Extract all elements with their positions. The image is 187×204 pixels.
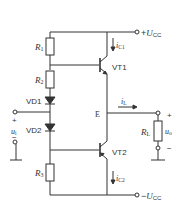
terminal-input-plus bbox=[13, 110, 17, 114]
resistor-r3 bbox=[46, 164, 54, 181]
output-minus-label: − bbox=[167, 144, 172, 153]
input-plus-label: + bbox=[12, 116, 17, 125]
vd2-label: VD2 bbox=[26, 126, 42, 135]
r3-label: R3 bbox=[34, 168, 44, 178]
il-label: iL bbox=[121, 97, 127, 106]
diode-vd1 bbox=[45, 97, 55, 104]
r2-label: R2 bbox=[34, 75, 44, 85]
terminal-output-minus bbox=[156, 146, 160, 150]
r1-label: R1 bbox=[34, 42, 44, 52]
output-label: uo bbox=[165, 127, 172, 136]
vt2-label: VT2 bbox=[112, 148, 127, 157]
transistor-vt2 bbox=[100, 113, 107, 195]
vt1-label: VT1 bbox=[112, 63, 127, 72]
ic2-label: iC2 bbox=[116, 174, 125, 183]
supply-pos-label: +UCC bbox=[141, 28, 162, 38]
terminal-pos-supply bbox=[135, 30, 139, 34]
input-minus-label: − bbox=[12, 133, 17, 142]
rl-label: RL bbox=[140, 127, 151, 137]
supply-neg-label: −UCC bbox=[141, 191, 162, 201]
resistor-r2 bbox=[46, 71, 54, 88]
ic1-label: iC1 bbox=[116, 41, 125, 50]
transistor-vt1 bbox=[100, 32, 107, 113]
terminal-output-plus bbox=[156, 111, 160, 115]
output-plus-label: + bbox=[167, 111, 172, 120]
circuit-diagram: +UCC −UCC R1 R2 R3 RL VD1 VD2 VT1 VT2 iC… bbox=[0, 0, 187, 204]
resistor-rl bbox=[154, 121, 162, 141]
vd1-label: VD1 bbox=[26, 97, 42, 106]
node-e-label: E bbox=[95, 110, 100, 119]
diode-vd2 bbox=[45, 124, 55, 131]
terminal-neg-supply bbox=[135, 193, 139, 197]
resistor-r1 bbox=[46, 38, 54, 55]
